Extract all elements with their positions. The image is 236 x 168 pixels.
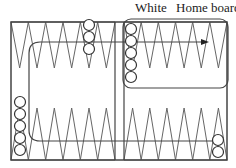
bottom-point-triangle <box>63 108 80 160</box>
checker <box>126 36 137 47</box>
bottom-point-triangle <box>98 108 115 160</box>
checker <box>84 32 95 43</box>
checker <box>15 145 26 156</box>
checker <box>126 72 137 83</box>
arrowhead-icon <box>201 39 209 45</box>
checker <box>126 24 137 35</box>
bottom-point-triangle <box>46 108 63 160</box>
checker <box>126 48 137 59</box>
checker <box>15 121 26 132</box>
checker <box>84 44 95 55</box>
checker <box>15 97 26 108</box>
top-point-triangle <box>46 22 63 68</box>
top-point-triangle <box>193 22 210 68</box>
checker <box>126 60 137 71</box>
backgammon-board <box>0 0 236 168</box>
top-point-triangle <box>210 22 227 68</box>
bottom-point-triangle <box>124 108 141 160</box>
checker <box>84 20 95 31</box>
top-point-triangle <box>98 22 115 68</box>
bottom-point-triangle <box>141 108 158 160</box>
checker <box>15 133 26 144</box>
board-outline <box>11 22 227 160</box>
home-board-outline <box>123 19 228 88</box>
top-point-triangle <box>141 22 158 68</box>
bottom-point-triangle <box>176 108 193 160</box>
top-point-triangle <box>158 22 175 68</box>
bottom-point-triangle <box>158 108 175 160</box>
bottom-point-triangle <box>80 108 97 160</box>
top-point-triangle <box>11 22 28 68</box>
checker <box>213 135 224 146</box>
bottom-point-triangle <box>28 108 45 160</box>
top-point-triangle <box>176 22 193 68</box>
bottom-point-triangle <box>193 108 210 160</box>
checker <box>15 109 26 120</box>
top-point-triangle <box>63 22 80 68</box>
checker <box>213 147 224 158</box>
